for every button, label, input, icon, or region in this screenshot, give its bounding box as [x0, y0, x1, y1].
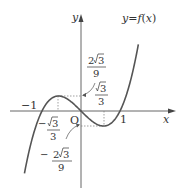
svg-text:9: 9	[93, 68, 99, 79]
tick-1-label: 1	[120, 113, 127, 126]
svg-text:3: 3	[98, 96, 104, 107]
origin-label: O	[70, 114, 79, 127]
svg-text:2: 2	[53, 149, 59, 160]
svg-text:9: 9	[58, 162, 64, 173]
max-leader	[83, 83, 95, 95]
y-axis-label: y	[71, 11, 79, 24]
svg-text:3: 3	[63, 149, 69, 160]
cubic-graph: y=f(x) y x O −1 1 2 3 9 3 3 − 3 3 − 2 3 …	[0, 0, 180, 191]
y-axis-arrow-icon	[79, 14, 84, 22]
min-value-fraction: − 2 3 9	[40, 148, 72, 173]
max-leader-arrow-icon	[82, 93, 86, 97]
svg-text:3: 3	[98, 55, 104, 66]
x-axis-label: x	[163, 113, 170, 126]
min-x-fraction: 3 3	[95, 82, 108, 107]
svg-text:3: 3	[52, 118, 58, 129]
svg-text:3: 3	[100, 83, 106, 94]
max-value-fraction: 2 3 9	[87, 54, 106, 79]
tick-neg1-label: −1	[21, 99, 37, 112]
svg-text:−: −	[40, 149, 48, 160]
function-label: y=f(x)	[121, 12, 156, 25]
svg-text:−: −	[38, 118, 46, 129]
svg-text:3: 3	[50, 131, 56, 142]
svg-text:2: 2	[88, 55, 94, 66]
max-x-fraction: − 3 3	[38, 117, 60, 142]
